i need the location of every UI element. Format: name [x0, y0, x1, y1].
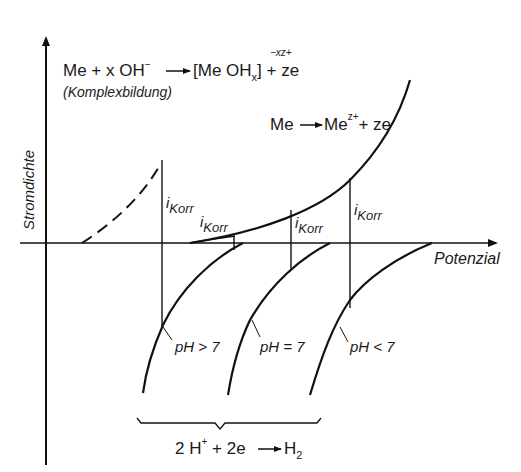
- svg-text:Me + x OH−: Me + x OH−: [63, 59, 151, 80]
- svg-text:Mez++ ze: Mez++ ze: [324, 111, 391, 134]
- svg-text:−xz+: −xz+: [270, 47, 292, 58]
- hydrogen-evolution-equation: 2 H+ + 2e H2: [175, 436, 302, 461]
- svg-text:H2: H2: [284, 439, 302, 461]
- hydrogen-brace: [137, 418, 321, 429]
- svg-text:Me: Me: [270, 115, 294, 134]
- svg-text:[Me OHx] + ze: [Me OHx] + ze: [193, 61, 299, 83]
- ph-label-lt-7: pH < 7: [349, 338, 395, 355]
- cathodic-curve-ph-eq-7: [228, 243, 330, 395]
- svg-text:2 H+ + 2e: 2 H+ + 2e: [175, 436, 246, 458]
- ph-label-eq-7: pH = 7: [259, 338, 305, 355]
- polarization-diagram: Stromdichte Potenzial iKorr iKorr iKorr …: [0, 0, 521, 472]
- ikorr-label-3: iKorr: [295, 214, 324, 236]
- complex-formation-note: (Komplexbildung): [63, 84, 172, 100]
- ikorr-label-4: iKorr: [354, 201, 383, 223]
- complex-formation-curve: [82, 165, 160, 243]
- ph-label-gt-7: pH > 7: [174, 338, 220, 355]
- complex-formation-equation: Me + x OH− [Me OHx] + ze −xz+ (Komplexbi…: [63, 47, 299, 100]
- cathodic-curve-ph-gt-7: [143, 243, 243, 393]
- ikorr-label-1: iKorr: [166, 194, 195, 216]
- anodic-dissolution-equation: Me Mez++ ze: [270, 111, 391, 134]
- x-axis-label: Potenzial: [434, 250, 500, 267]
- y-axis-label: Stromdichte: [20, 150, 37, 230]
- small-tangent-curve: [190, 236, 235, 243]
- ikorr-label-2: iKorr: [200, 213, 229, 235]
- cathodic-curve-ph-lt-7: [310, 243, 432, 395]
